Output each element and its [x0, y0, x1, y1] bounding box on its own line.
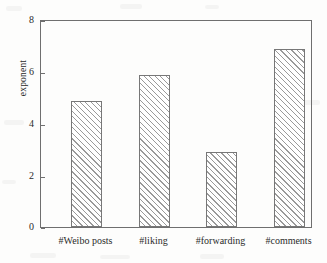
scan-artifact: [2, 180, 16, 184]
y-tick-2: 2: [7, 177, 41, 178]
y-tick-8: 8: [7, 21, 41, 22]
plot-area: 8 6 4 2 0: [40, 20, 312, 228]
y-tick-label: 0: [29, 221, 34, 233]
y-tick-mark: [41, 73, 45, 74]
y-axis-label: exponent: [18, 38, 28, 118]
bar-chart-figure: exponent 8 6 4 2 0: [0, 0, 327, 263]
scan-artifact: [205, 5, 219, 9]
y-tick-label: 6: [29, 66, 34, 78]
scan-artifact: [100, 255, 130, 259]
y-tick-0: 0: [7, 228, 41, 229]
bar-weibo-posts[interactable]: [71, 101, 102, 227]
y-tick-6: 6: [7, 73, 41, 74]
bar-liking[interactable]: [139, 75, 170, 227]
y-tick-4: 4: [7, 125, 41, 126]
y-tick-label: 4: [29, 118, 34, 130]
y-tick-mark: [41, 228, 45, 229]
y-tick-label: 8: [29, 14, 34, 26]
y-tick-mark: [41, 177, 45, 178]
bar-comments[interactable]: [274, 49, 305, 227]
scan-artifact: [200, 254, 224, 259]
scan-artifact: [30, 253, 56, 258]
y-tick-label: 2: [29, 170, 34, 182]
scan-artifact: [120, 4, 142, 9]
scan-artifact: [6, 6, 22, 11]
y-tick-mark: [41, 125, 45, 126]
bar-forwarding[interactable]: [206, 152, 237, 227]
x-tick-label-comments: #comments: [229, 234, 327, 247]
y-tick-mark: [41, 21, 45, 22]
